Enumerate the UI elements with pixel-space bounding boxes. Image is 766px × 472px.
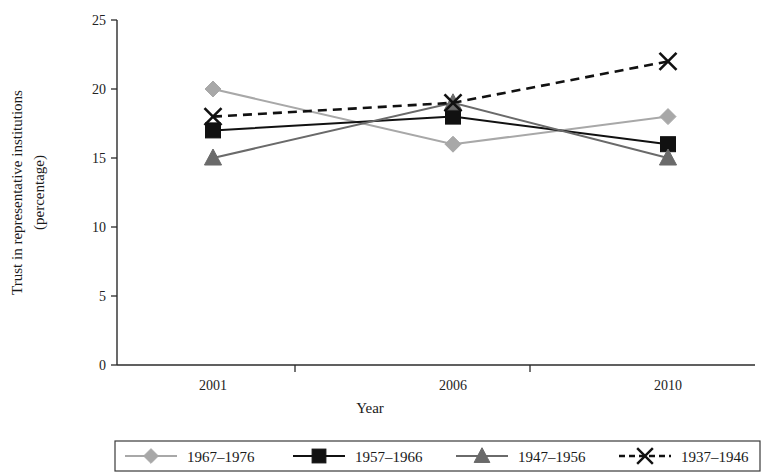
data-series-layer xyxy=(204,53,676,165)
series-line xyxy=(213,61,668,116)
square-marker xyxy=(312,449,326,463)
y-axis-title-line2: (percentage) xyxy=(31,155,48,230)
series-4 xyxy=(205,53,677,125)
x-tick-label: 2006 xyxy=(439,378,467,393)
x-axis: 200120062010 xyxy=(117,365,755,393)
legend-item-3[interactable]: 1947–1956 xyxy=(456,448,586,465)
line-chart: 0510152025 200120062010 YearTrust in rep… xyxy=(0,0,766,472)
x-tick-label: 2010 xyxy=(654,378,682,393)
chart-legend: 1967–19761957–19661947–19561937–1946 xyxy=(115,441,760,471)
x-tick-label: 2001 xyxy=(199,378,227,393)
y-tick-label: 20 xyxy=(92,82,106,97)
diamond-marker xyxy=(660,109,676,125)
marker-square xyxy=(206,123,221,138)
y-tick-label: 15 xyxy=(92,151,106,166)
chart-container: 0510152025 200120062010 YearTrust in rep… xyxy=(0,0,766,472)
marker-diamond xyxy=(205,81,221,97)
y-tick-label: 0 xyxy=(99,358,106,373)
marker-square xyxy=(446,109,461,124)
y-tick-label: 10 xyxy=(92,220,106,235)
marker-square xyxy=(312,449,326,463)
diamond-marker xyxy=(445,136,461,152)
marker-diamond xyxy=(445,136,461,152)
square-marker xyxy=(446,109,461,124)
marker-diamond xyxy=(144,449,159,464)
y-tick-label: 25 xyxy=(92,13,106,28)
marker-diamond xyxy=(660,109,676,125)
square-marker xyxy=(206,123,221,138)
y-axis-title-line1: Trust in representative institutions xyxy=(9,90,25,295)
legend-item-2[interactable]: 1957–1966 xyxy=(293,449,423,465)
legend-label: 1937–1946 xyxy=(681,449,749,465)
diamond-marker xyxy=(144,449,159,464)
x-axis-title: Year xyxy=(356,400,384,416)
legend-item-4[interactable]: 1937–1946 xyxy=(619,448,749,465)
legend-label: 1967–1976 xyxy=(187,449,255,465)
axis-titles: YearTrust in representative institutions… xyxy=(9,90,384,416)
y-tick-label: 5 xyxy=(99,289,106,304)
diamond-marker xyxy=(205,81,221,97)
legend-label: 1947–1956 xyxy=(518,449,586,465)
legend-label: 1957–1966 xyxy=(355,449,423,465)
series-line xyxy=(213,103,668,158)
series-2 xyxy=(206,109,676,152)
y-axis: 0510152025 xyxy=(92,13,117,373)
legend-item-1[interactable]: 1967–1976 xyxy=(125,449,255,465)
